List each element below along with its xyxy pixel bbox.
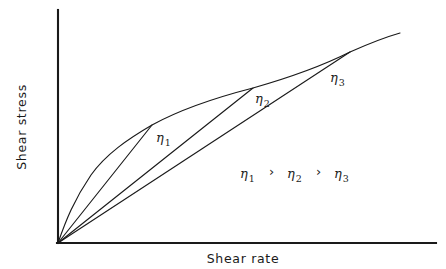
annotation-eta-2-subscript: 2 [296, 173, 302, 184]
flow-curve-path [58, 33, 400, 243]
annotation-eta-3: η3 [334, 166, 349, 184]
annotation-eta-1: η1 [240, 166, 255, 184]
x-axis-title: Shear rate [207, 251, 280, 266]
plot-area: η1 η2 η3 η1 › η2 › η3 Shear rate Shear s… [0, 0, 446, 269]
eta-1-symbol: η [156, 130, 164, 145]
curve-label-eta-1: η1 [156, 130, 171, 148]
eta-2-symbol: η [255, 91, 263, 106]
secant-line-eta-2 [58, 88, 253, 243]
eta-3-symbol: η [330, 70, 338, 85]
curve-label-eta-2: η2 [255, 91, 270, 109]
secant-line-eta-3 [58, 52, 350, 243]
annotation-eta-1-subscript: 1 [249, 173, 255, 184]
curve-label-eta-3: η3 [330, 70, 345, 88]
eta-3-subscript: 3 [339, 77, 345, 88]
eta-2-subscript: 2 [264, 98, 270, 109]
annotation-operator-2: › [316, 164, 321, 179]
annotation-eta-2-symbol: η [287, 166, 295, 181]
secant-line-eta-1 [58, 125, 152, 243]
annotation-eta-1-symbol: η [240, 166, 248, 181]
annotation-operator-1: › [269, 164, 274, 179]
annotation-eta-3-symbol: η [334, 166, 342, 181]
y-axis-title: Shear stress [14, 84, 29, 170]
flow-curve-figure: η1 η2 η3 η1 › η2 › η3 Shear rate Shear s… [0, 0, 446, 269]
viscosity-inequality-annotation: η1 › η2 › η3 [240, 164, 349, 184]
annotation-eta-3-subscript: 3 [343, 173, 349, 184]
eta-1-subscript: 1 [165, 137, 171, 148]
annotation-eta-2: η2 [287, 166, 302, 184]
